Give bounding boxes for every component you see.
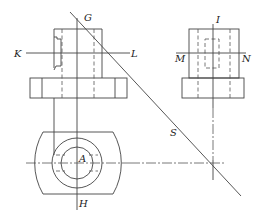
label-I: I <box>215 14 221 25</box>
miter-line-S <box>70 12 241 196</box>
label-S: S <box>170 127 177 138</box>
label-L: L <box>130 48 138 59</box>
label-N: N <box>241 53 252 64</box>
front-view <box>26 18 130 210</box>
projection-drawing: G K L I M N S A H <box>0 0 262 218</box>
label-K: K <box>13 48 22 59</box>
side-view <box>176 24 246 180</box>
label-M: M <box>174 53 186 64</box>
label-H: H <box>78 198 88 209</box>
label-A: A <box>78 153 86 164</box>
top-view <box>26 132 225 194</box>
label-G: G <box>84 12 92 23</box>
